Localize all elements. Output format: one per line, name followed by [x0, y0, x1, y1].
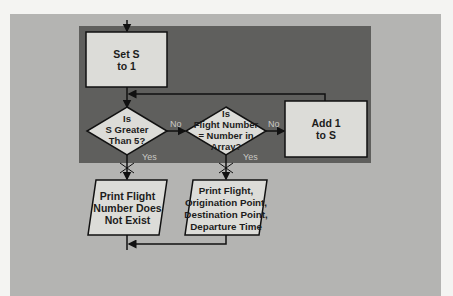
edge-label-yes-2: Yes: [243, 152, 258, 162]
check-flight-label: Is Flight Number = Number in Array?: [183, 108, 269, 152]
add-one-label: Add 1 to S: [285, 117, 367, 141]
edge-label-no-2: No: [268, 119, 280, 129]
set-s-label: Set S to 1: [86, 48, 167, 72]
print-details-label: Print Flight, Origination Point, Destina…: [182, 185, 270, 233]
check-s-label: Is S Greater Than 5?: [87, 113, 167, 146]
edge-label-no-1: No: [170, 119, 182, 129]
print-not-exist-label: Print Flight Number Does Not Exist: [88, 190, 167, 226]
edge-label-yes-1: Yes: [142, 152, 157, 162]
